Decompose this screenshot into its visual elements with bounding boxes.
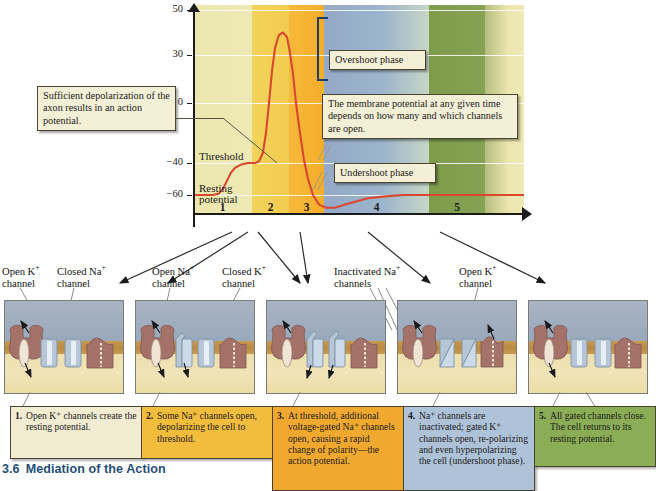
y-tick-label-30: 30 <box>157 48 183 59</box>
panel-caption-5-text: All gated channels close. The cell retur… <box>539 410 651 444</box>
channel-label-inactivated-na-line2: channels <box>334 278 371 289</box>
channel-label-open-na-line1: Open Na <box>152 266 190 277</box>
callout-membrane-potential-text: The membrane potential at any given time… <box>328 98 502 134</box>
channel-label-open-k-1: Open K+ channel <box>2 262 39 290</box>
y-axis <box>193 5 195 227</box>
panel-3-channels <box>267 301 385 393</box>
channel-label-closed-na: Closed Na+ channel <box>57 262 106 290</box>
callout-membrane-potential: The membrane potential at any given time… <box>322 94 518 139</box>
closed-channel-5b <box>595 339 611 367</box>
membrane-panel-3 <box>266 300 386 394</box>
panel-caption-1: 1. Open K⁺ channels create the resting p… <box>10 406 142 459</box>
panel-caption-5-number: 5. <box>539 410 546 421</box>
channel-label-open-k-2: Open K+ channel <box>459 262 496 290</box>
panel-5-channels <box>529 301 647 393</box>
y-tick-mark-m40 <box>187 163 192 164</box>
open-k-channel-protein-1 <box>9 325 43 367</box>
open-na-channel-3a <box>307 331 323 367</box>
pump-protein-3 <box>351 338 377 368</box>
channel-label-open-k-2-line2: channel <box>459 278 492 289</box>
channel-label-open-k-2-line1: Open K <box>459 266 492 277</box>
membrane-panel-2 <box>135 300 255 394</box>
channel-label-closed-na-sup: + <box>101 263 105 272</box>
channel-label-open-k-2-sup: + <box>492 263 496 272</box>
closed-na-channel-1b <box>65 339 81 367</box>
pump-protein-1 <box>87 338 113 368</box>
channel-label-closed-k-sup: + <box>262 263 266 272</box>
channel-label-open-na-sup: + <box>190 263 194 272</box>
panel-1-channels <box>5 301 123 393</box>
channel-label-closed-na-line1: Closed Na <box>57 266 101 277</box>
panel-caption-2-text: Some Na⁺ channels open, depolarizing the… <box>146 410 268 444</box>
callout-depolarization: Sufficient depolarization of the axon re… <box>37 86 176 131</box>
channel-label-closed-k-line1: Closed K <box>222 266 262 277</box>
channel-label-open-k-1-sup: + <box>35 263 39 272</box>
channel-label-inactivated-na-sup: + <box>396 263 400 272</box>
channel-label-open-na: Open Na+ channel <box>152 262 194 290</box>
x-axis-arrowhead <box>522 207 532 221</box>
channel-label-open-na-line2: channel <box>152 278 185 289</box>
closed-channel-5a <box>571 339 587 367</box>
panel-caption-4-number: 4. <box>408 410 415 421</box>
membrane-panel-4 <box>397 300 517 394</box>
y-tick-mark-m60 <box>187 195 192 196</box>
panel-caption-3: 3. At threshold, additional voltage-gate… <box>272 406 404 491</box>
panel-4-channels <box>398 301 516 393</box>
phase-number-2: 2 <box>252 201 289 213</box>
panel-caption-5: 5. All gated channels close. The cell re… <box>534 406 656 467</box>
figure-number: 3.6 <box>2 462 20 476</box>
callout-depolarization-leader <box>175 118 223 119</box>
y-tick-mark-50 <box>187 10 192 11</box>
closed-k-channel-2 <box>198 339 214 367</box>
membrane-panel-5 <box>528 300 648 394</box>
inactivated-na-channel-4a <box>440 339 454 367</box>
open-k-channel-protein-2 <box>140 325 174 367</box>
overshoot-bracket <box>317 17 328 81</box>
threshold-label: Threshold <box>199 151 244 162</box>
y-tick-label-minus60: −60 <box>157 188 183 199</box>
panel-caption-4: 4. Na⁺ channels are inactivated; gated K… <box>403 406 535 491</box>
phase-number-4: 4 <box>324 201 429 213</box>
membrane-panel-1 <box>4 300 124 394</box>
resting-potential-label: Resting potential <box>199 183 238 205</box>
channel-label-closed-k-line2: channel <box>222 278 255 289</box>
y-tick-mark-0 <box>187 103 192 104</box>
channel-label-closed-k: Closed K+ channel <box>222 262 266 290</box>
open-k-channel-protein-3 <box>271 325 305 367</box>
callout-overshoot: Overshoot phase <box>329 50 426 70</box>
callout-undershoot-text: Undershoot phase <box>340 167 413 178</box>
figure-title: Mediation of the Action <box>26 462 166 476</box>
callout-overshoot-text: Overshoot phase <box>335 54 403 65</box>
open-k-channel-protein-5 <box>533 325 567 367</box>
figure-caption: 3.6Mediation of the Action <box>2 462 166 476</box>
panel-caption-2-number: 2. <box>146 410 153 421</box>
channel-label-closed-na-line2: channel <box>57 278 90 289</box>
callout-undershoot: Undershoot phase <box>334 163 436 183</box>
channel-label-open-k-1-line2: channel <box>2 278 35 289</box>
panel-caption-1-text: Open K⁺ channels create the resting pote… <box>15 410 137 432</box>
channel-label-inactivated-na: Inactivated Na+ channels <box>334 262 400 290</box>
channel-label-open-k-1-line1: Open K <box>2 266 35 277</box>
channel-label-inactivated-na-line1: Inactivated Na <box>334 266 396 277</box>
y-tick-mark-30 <box>187 55 192 56</box>
panel-caption-4-text: Na⁺ channels are inactivated; gated K⁺ c… <box>408 410 530 466</box>
pump-protein-5 <box>615 338 641 368</box>
inactivated-na-channel-4b <box>462 339 476 367</box>
x-axis <box>193 213 524 215</box>
callout-depolarization-text: Sufficient depolarization of the axon re… <box>43 90 170 126</box>
open-na-channel-3b <box>329 331 345 367</box>
pump-protein-2 <box>220 338 246 368</box>
closed-na-channel-1 <box>41 339 57 367</box>
open-k-channel-4 <box>481 337 503 367</box>
resting-potential-line2: potential <box>199 193 238 205</box>
phase-number-3: 3 <box>289 201 324 213</box>
panel-caption-2: 2. Some Na⁺ channels open, depolarizing … <box>141 406 273 459</box>
y-tick-label-minus40: −40 <box>157 156 183 167</box>
panel-caption-1-number: 1. <box>15 410 22 421</box>
panel-caption-3-text: At threshold, additional voltage-gated N… <box>277 410 399 466</box>
y-tick-label-50: 50 <box>157 3 183 14</box>
open-k-channel-protein-4 <box>402 325 436 367</box>
panel-caption-3-number: 3. <box>277 410 284 421</box>
phase-number-5: 5 <box>429 201 485 213</box>
